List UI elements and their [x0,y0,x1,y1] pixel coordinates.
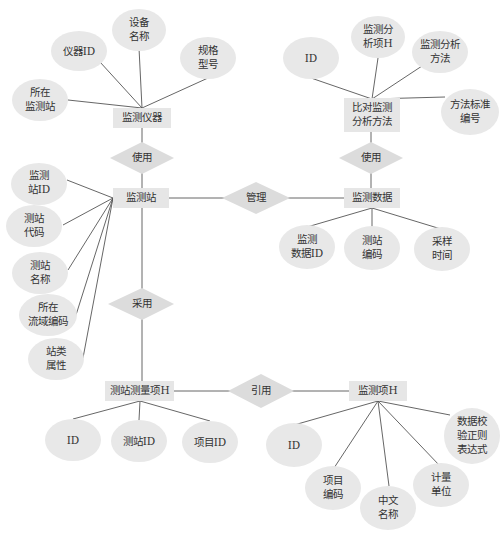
svg-text:设备: 设备 [129,16,150,28]
relationship-manages: 管理 [222,182,290,214]
svg-text:编号: 编号 [460,112,480,124]
svg-text:站ID: 站ID [28,183,51,195]
attribute-instrument-id: 仪器ID [51,31,107,71]
svg-text:代码: 代码 [24,226,44,238]
svg-text:监测数据: 监测数据 [352,191,393,203]
svg-text:验正则: 验正则 [457,429,487,441]
svg-text:仪器ID: 仪器ID [63,45,96,57]
svg-text:所在: 所在 [30,86,50,98]
svg-text:流域编码: 流域编码 [28,315,68,327]
er-diagram: 仪器ID 设备 名称 规格 型号 所在 监测站 监测仪器 使用 监测站 监测 站… [0,0,501,536]
svg-text:表达式: 表达式 [457,443,488,455]
attribute-monitoring-item-id: ID [266,423,322,467]
svg-text:方法: 方法 [430,52,450,64]
svg-text:测站: 测站 [24,212,45,224]
svg-text:监测: 监测 [29,169,49,181]
svg-text:监测站: 监测站 [25,100,56,112]
svg-text:监测项H: 监测项H [358,384,397,396]
svg-text:析项H: 析项H [363,37,392,49]
attribute-sampling-time: 采样 时间 [414,227,470,271]
svg-text:监测仪器: 监测仪器 [122,111,163,123]
entity-monitoring-data: 监测数据 [344,188,400,208]
svg-text:分析方法: 分析方法 [352,115,392,127]
attribute-device-name: 设备 名称 [112,9,166,51]
attribute-spec-model: 规格 型号 [180,37,236,79]
svg-text:采样: 采样 [432,235,452,247]
svg-text:站类: 站类 [46,345,67,357]
svg-text:测站: 测站 [30,259,51,271]
svg-text:数据ID: 数据ID [291,247,324,259]
svg-text:采用: 采用 [132,297,152,309]
entity-monitoring-item: 监测项H [349,381,407,401]
attribute-basin-code: 所在 流域编码 [19,294,77,336]
svg-text:名称: 名称 [129,30,150,42]
svg-text:中文: 中文 [378,494,399,506]
svg-text:使用: 使用 [361,151,381,163]
svg-text:数据校: 数据校 [457,415,488,427]
attribute-station-encoding: 测站 编码 [344,226,400,270]
svg-text:管理: 管理 [246,191,267,203]
svg-text:ID: ID [67,434,80,446]
relationship-adopts: 采用 [108,288,174,320]
svg-text:所在: 所在 [38,301,58,313]
entity-comparison-analysis-method: 比对监测 分析方法 [344,98,400,132]
attribute-station-item-id: ID [45,419,101,461]
svg-text:使用: 使用 [132,151,152,163]
svg-text:比对监测: 比对监测 [352,101,392,113]
relationship-uses-right: 使用 [339,142,403,174]
svg-text:ID: ID [305,52,318,64]
attribute-data-id: 监测 数据ID [279,225,335,269]
svg-text:测站测量项H: 测站测量项H [110,384,169,396]
svg-text:编码: 编码 [362,248,382,260]
svg-text:监测: 监测 [297,233,317,245]
attribute-unit: 计量 单位 [413,463,469,507]
svg-text:监测分: 监测分 [363,23,394,35]
relationship-references: 引用 [228,374,294,408]
attribute-method-standard-number: 方法标准 编号 [441,89,499,135]
svg-text:计量: 计量 [431,471,452,483]
entity-monitoring-station: 监测站 [113,188,169,208]
svg-text:属性: 属性 [46,359,66,371]
svg-text:测站: 测站 [362,234,383,246]
svg-text:测站ID: 测站ID [123,435,156,447]
svg-text:型号: 型号 [198,58,218,70]
svg-text:规格: 规格 [198,44,219,56]
svg-text:名称: 名称 [378,508,399,520]
attribute-item-code: 项目 编码 [305,466,361,510]
svg-text:引用: 引用 [251,384,271,396]
attribute-station-id-ref: 测站ID [111,420,167,462]
svg-text:监测分析: 监测分析 [420,38,461,50]
attribute-station-code: 测站 代码 [6,205,62,247]
svg-text:时间: 时间 [432,249,452,261]
svg-text:ID: ID [288,439,301,451]
svg-text:单位: 单位 [431,485,452,497]
attribute-station-id: 监测 站ID [11,163,67,205]
svg-text:名称: 名称 [30,273,51,285]
svg-text:编码: 编码 [323,488,343,500]
attribute-located-station: 所在 监测站 [12,79,68,121]
attribute-analysis-item: 监测分 析项H [351,16,405,58]
entity-station-measurement-item: 测站测量项H [105,381,174,401]
attribute-item-id: 项目ID [182,421,238,463]
svg-text:项目ID: 项目ID [194,436,227,448]
attribute-validation-regex: 数据校 验正则 表达式 [444,408,500,464]
svg-text:监测站: 监测站 [126,191,157,203]
attribute-analysis-method: 监测分析 方法 [412,31,468,73]
entity-monitoring-instrument: 监测仪器 [113,108,171,128]
relationship-uses-left: 使用 [110,142,174,174]
attribute-chinese-name: 中文 名称 [360,486,416,530]
attribute-method-id: ID [283,37,339,79]
attribute-station-type: 站类 属性 [28,338,84,380]
svg-text:项目: 项目 [323,474,343,486]
attribute-station-name: 测站 名称 [12,252,68,294]
svg-text:方法标准: 方法标准 [450,98,490,110]
